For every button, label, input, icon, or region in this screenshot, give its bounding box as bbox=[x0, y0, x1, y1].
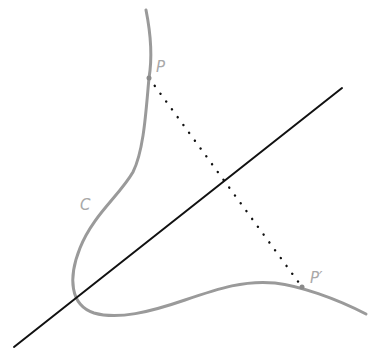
point-p-prime-marker bbox=[300, 285, 305, 290]
diagram-canvas: P P′ C bbox=[0, 0, 372, 364]
reflection-diagram: P P′ C bbox=[0, 0, 372, 364]
label-p: P bbox=[156, 58, 166, 76]
mirror-line bbox=[14, 88, 342, 347]
label-p-prime: P′ bbox=[310, 269, 323, 287]
point-p-marker bbox=[147, 76, 152, 81]
dotted-segment-p-to-p-prime bbox=[149, 78, 302, 287]
label-curve-c: C bbox=[80, 196, 91, 214]
